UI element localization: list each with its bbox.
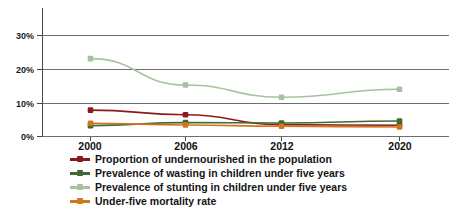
legend-label-stunting: Prevalence of stunting in children under… — [95, 180, 347, 194]
x-axis-label-2006: 2006 — [174, 140, 198, 152]
data-point-mortality-2012 — [279, 123, 285, 129]
legend-marker-mortality — [70, 195, 90, 207]
legend-label-mortality: Under-five mortality rate — [95, 194, 216, 208]
data-point-mortality-2000 — [88, 121, 94, 127]
series-line-stunting — [91, 59, 400, 98]
legend-item-mortality[interactable]: Under-five mortality rate — [70, 194, 400, 208]
data-point-wasting-2020 — [397, 118, 403, 124]
data-point-stunting-2012 — [279, 94, 285, 100]
legend-marker-wasting — [70, 167, 90, 179]
x-tick-marks — [91, 137, 400, 141]
legend-marker-stunting — [70, 181, 90, 193]
x-axis-label-2020: 2020 — [388, 140, 412, 152]
data-point-stunting-2020 — [397, 87, 403, 93]
legend-marker-undernourished — [70, 153, 90, 165]
data-point-mortality-2020 — [397, 124, 403, 130]
x-axis-label-2012: 2012 — [270, 140, 294, 152]
data-point-undernourished-2006 — [183, 112, 189, 118]
data-point-undernourished-2000 — [88, 107, 94, 113]
legend-item-wasting[interactable]: Prevalence of wasting in children under … — [70, 166, 400, 180]
data-point-stunting-2006 — [183, 82, 189, 88]
line-chart: 30% 20% 10% 0% 2000 2006 2012 2020 Propo… — [0, 0, 461, 221]
y-axis-label-20: 20% — [16, 65, 34, 75]
data-point-stunting-2000 — [88, 56, 94, 62]
legend-item-undernourished[interactable]: Proportion of undernourished in the popu… — [70, 152, 400, 166]
chart-legend: Proportion of undernourished in the popu… — [70, 152, 400, 208]
y-tick-marks — [37, 36, 42, 137]
y-axis-label-0: 0% — [21, 132, 34, 142]
x-axis-label-2000: 2000 — [78, 140, 102, 152]
data-point-mortality-2006 — [183, 122, 189, 128]
legend-item-stunting[interactable]: Prevalence of stunting in children under… — [70, 180, 400, 194]
legend-label-wasting: Prevalence of wasting in children under … — [95, 166, 345, 180]
y-axis-label-10: 10% — [16, 99, 34, 109]
legend-label-undernourished: Proportion of undernourished in the popu… — [95, 152, 332, 166]
y-axis-label-30: 30% — [16, 31, 34, 41]
data-series-layer — [88, 56, 403, 130]
